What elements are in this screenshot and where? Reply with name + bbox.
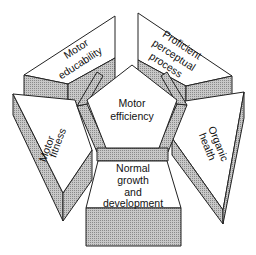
label-normal-growth-2: growth	[117, 174, 149, 186]
block-normal-growth-and-development: Normal growth and development	[86, 161, 181, 246]
label-normal-growth-1: Normal	[116, 162, 150, 174]
diagram-canvas: Motor educability Proficient perceptual …	[0, 0, 256, 255]
center-label-1: Motor	[119, 97, 146, 109]
label-normal-growth-4: development	[103, 197, 163, 209]
center-label-2: efficiency	[110, 110, 154, 122]
motor-efficiency-diagram: Motor educability Proficient perceptual …	[0, 0, 256, 255]
